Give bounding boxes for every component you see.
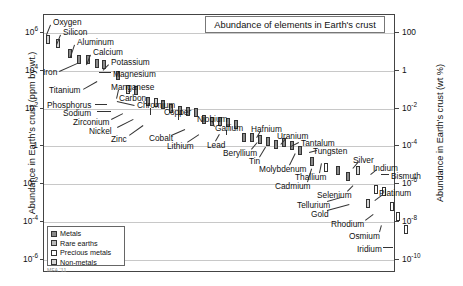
chart-root: Abundance in Earth's crust (ppm by wt.) … — [0, 0, 463, 286]
element-label: Calcium — [93, 48, 123, 56]
y-tick-mark-right — [395, 108, 399, 109]
data-marker — [242, 133, 246, 142]
y-tick-label-right: 100 — [402, 27, 416, 37]
y-tick-mark-right — [395, 145, 399, 146]
element-label: Magnesium — [113, 70, 156, 78]
data-marker — [95, 59, 99, 68]
leader-line — [383, 247, 393, 248]
element-label: Manganese — [111, 83, 154, 91]
y-tick-label-left: 10-4 — [12, 216, 38, 226]
element-label: Copper — [164, 108, 191, 116]
gridline — [44, 33, 394, 34]
element-label: Gallium — [215, 124, 243, 132]
y-tick-label-left: 1 — [12, 140, 38, 150]
element-label: Zinc — [111, 135, 127, 143]
gridline — [44, 184, 394, 185]
watermark: MFA '11 — [47, 267, 67, 273]
chart-title: Abundance of elements in Earth's crust — [205, 16, 385, 33]
y-tick-label-right: 1 — [402, 65, 407, 75]
gridline — [44, 71, 394, 72]
data-marker — [250, 133, 254, 142]
y-tick-label-right: 10-10 — [402, 254, 421, 264]
element-label: Silicon — [63, 28, 87, 36]
element-label: Selenium — [317, 191, 352, 199]
y-tick-label-left: 10-6 — [12, 254, 38, 264]
data-marker — [324, 163, 328, 172]
data-marker — [366, 199, 370, 208]
element-label: Silver — [353, 156, 374, 164]
leader-line — [381, 174, 389, 175]
leader-line — [327, 204, 349, 211]
legend-item: Rare earths — [51, 239, 121, 248]
element-label: Bismuth — [391, 172, 421, 180]
leader-line — [97, 111, 111, 112]
data-marker — [336, 166, 340, 175]
y-tick-label-left: 106 — [12, 27, 38, 37]
y-tick-label-left: 104 — [12, 65, 38, 75]
element-label: Potassium — [111, 58, 150, 66]
element-label: Osmium — [349, 232, 380, 240]
element-label: Oxygen — [53, 18, 82, 26]
y-axis-title-right: Abundance in Earth's crust (wt %) — [435, 33, 445, 233]
y-tick-mark-right — [395, 259, 399, 260]
element-label: Rhodium — [331, 220, 364, 228]
legend-swatch-precious — [51, 250, 57, 256]
data-marker — [266, 137, 270, 146]
element-label: Tungsten — [313, 147, 347, 155]
legend-swatch-non — [51, 259, 57, 265]
y-tick-label-left: 10-2 — [12, 178, 38, 188]
legend-item: Metals — [51, 229, 121, 238]
data-marker — [404, 225, 408, 234]
leader-line — [70, 45, 75, 57]
data-marker — [346, 172, 350, 181]
leader-line — [95, 104, 107, 105]
data-marker — [310, 157, 314, 166]
y-tick-mark-right — [395, 32, 399, 33]
legend: MetalsRare earthsPrecious metalsNon-meta… — [47, 226, 125, 266]
legend-item: Precious metals — [51, 248, 121, 257]
legend-item: Non-metals — [51, 258, 121, 267]
legend-label: Non-metals — [60, 258, 97, 267]
element-label: Iridium — [357, 245, 382, 253]
data-marker — [274, 140, 278, 149]
y-tick-label-right: 10-2 — [402, 103, 417, 113]
element-label: Lithium — [167, 142, 194, 150]
data-marker — [374, 185, 378, 194]
data-marker — [356, 166, 360, 175]
legend-label: Precious metals — [60, 248, 111, 257]
legend-swatch-rare — [51, 240, 57, 246]
leader-line — [171, 129, 185, 136]
element-label: Nickel — [89, 127, 112, 135]
leader-line — [99, 72, 111, 73]
element-label: Iron — [43, 68, 57, 76]
legend-swatch-metal — [51, 231, 57, 237]
leader-line — [117, 119, 133, 128]
element-label: Cadmium — [275, 182, 311, 190]
data-marker — [258, 135, 262, 144]
element-label: Platinum — [379, 189, 411, 197]
data-marker — [77, 55, 81, 64]
element-label: Gold — [311, 210, 329, 218]
leader-line — [129, 125, 144, 136]
y-tick-mark-right — [395, 70, 399, 71]
leader-line — [259, 147, 266, 158]
y-tick-mark-right — [395, 183, 399, 184]
element-label: Aluminum — [77, 38, 114, 46]
data-marker — [396, 212, 400, 221]
gridline — [44, 109, 394, 110]
legend-label: Metals — [60, 229, 81, 238]
y-tick-label-left: 102 — [12, 103, 38, 113]
y-tick-label-right: 10-4 — [402, 140, 417, 150]
leader-line — [365, 214, 374, 221]
leader-line — [83, 81, 97, 90]
y-tick-mark-right — [395, 221, 399, 222]
data-marker — [46, 35, 50, 44]
legend-label: Rare earths — [60, 239, 98, 248]
element-label: Titanium — [49, 86, 81, 94]
leader-line — [111, 113, 123, 120]
data-marker — [390, 202, 394, 211]
